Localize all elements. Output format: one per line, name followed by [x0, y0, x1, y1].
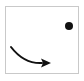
diagram-panel: Arrow and dot diagram dot curved arrow p…: [5, 6, 79, 74]
diagram-canvas: Arrow and dot diagram dot curved arrow p…: [0, 0, 84, 81]
target-dot: [65, 22, 73, 30]
diagram-svg: [6, 7, 79, 74]
curved-arrow-shaft: [11, 47, 42, 63]
